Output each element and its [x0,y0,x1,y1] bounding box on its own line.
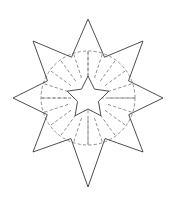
star-figure-canvas [0,0,176,203]
